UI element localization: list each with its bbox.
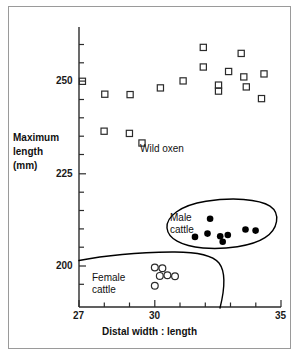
plot-canvas — [0, 0, 299, 356]
data-point-female-cattle — [172, 273, 179, 280]
data-point-male-cattle — [207, 216, 214, 223]
data-point-male-cattle — [219, 238, 226, 245]
y-axis-label-line-3: (mm) — [13, 159, 71, 173]
data-point-wild-oxen — [226, 68, 232, 74]
data-point-male-cattle — [225, 232, 232, 239]
data-point-wild-oxen — [200, 44, 206, 50]
y-axis-label-line-2: length — [13, 145, 71, 159]
x-tick-label-30: 30 — [149, 310, 160, 321]
data-point-wild-oxen — [243, 84, 249, 90]
scatter-plot-figure: 250 225 200 27 30 35 Maximum length (mm)… — [0, 0, 299, 356]
series-female-cattle — [151, 264, 178, 289]
series-male-cattle — [192, 216, 259, 246]
y-axis-label: Maximum length (mm) — [13, 131, 71, 173]
data-point-wild-oxen — [238, 50, 244, 56]
data-point-wild-oxen — [157, 85, 163, 91]
data-point-wild-oxen — [241, 74, 247, 80]
data-point-female-cattle — [159, 265, 166, 272]
y-tick-label-200: 200 — [56, 260, 73, 271]
annotation-wild-oxen: Wild oxen — [140, 143, 184, 155]
data-point-male-cattle — [204, 230, 211, 237]
axis-lines — [79, 27, 281, 307]
y-tick-label-250: 250 — [56, 75, 73, 86]
data-point-female-cattle — [151, 264, 158, 271]
x-axis-ticks — [79, 300, 281, 307]
data-point-wild-oxen — [127, 92, 133, 98]
x-tick-label-35: 35 — [275, 310, 286, 321]
data-point-wild-oxen — [200, 64, 206, 70]
data-point-wild-oxen — [215, 88, 221, 94]
y-axis-label-line-1: Maximum — [13, 131, 71, 145]
data-point-male-cattle — [242, 226, 249, 233]
annotation-male-cattle: Male cattle — [170, 212, 194, 236]
data-point-wild-oxen — [126, 130, 132, 136]
data-point-female-cattle — [164, 272, 171, 279]
x-tick-label-27: 27 — [73, 310, 84, 321]
data-point-wild-oxen — [101, 128, 107, 134]
data-point-wild-oxen — [102, 91, 108, 97]
data-point-wild-oxen — [258, 96, 264, 102]
data-point-wild-oxen — [261, 71, 267, 77]
data-point-male-cattle — [252, 227, 259, 234]
data-point-wild-oxen — [180, 78, 186, 84]
series-wild-oxen — [79, 44, 267, 146]
data-point-female-cattle — [156, 273, 163, 280]
data-point-wild-oxen — [215, 82, 221, 88]
data-point-female-cattle — [151, 282, 158, 289]
x-axis-label: Distal width : length — [0, 326, 299, 337]
annotation-female-cattle: Female cattle — [92, 272, 125, 296]
